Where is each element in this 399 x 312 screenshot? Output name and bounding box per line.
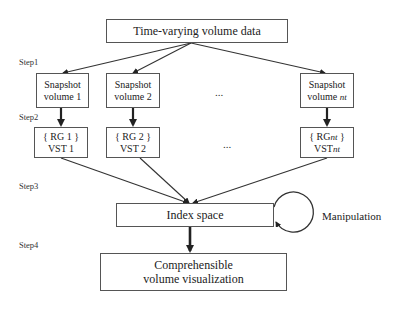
output-line1: Comprehensible xyxy=(154,258,233,272)
snapshot-nt-line2: volume nt xyxy=(307,91,347,103)
step2-label: Step2 xyxy=(19,112,38,122)
step2-arrows xyxy=(61,108,327,125)
ellipsis-rg: ... xyxy=(223,138,231,150)
snapshot-volume-2-box: Snapshot volume 2 xyxy=(106,73,160,108)
rg2-vst2-box: { RG 2 } VST 2 xyxy=(106,127,160,158)
snapshot-volume-nt-box: Snapshot volume nt xyxy=(300,73,354,108)
rg1-vst1-box: { RG 1 } VST 1 xyxy=(34,127,88,158)
step3-label: Step3 xyxy=(19,181,38,191)
snapshot-1-line2: volume 1 xyxy=(44,91,82,103)
step1-arrows xyxy=(63,43,325,73)
nt-subscript: nt xyxy=(340,92,347,102)
rgnt-label: { RGnt } xyxy=(309,131,345,143)
rg2-label: { RG 2 } xyxy=(115,131,151,143)
index-space-label: Index space xyxy=(167,208,224,222)
manipulation-loop-arrow xyxy=(274,192,313,232)
vstnt-label: VSTnt xyxy=(314,143,340,155)
manipulation-label: Manipulation xyxy=(322,210,381,222)
rgnt-vstnt-box: { RGnt } VSTnt xyxy=(300,127,354,158)
snapshot-nt-line1: Snapshot xyxy=(309,79,346,91)
top-box-label: Time-varying volume data xyxy=(133,24,261,38)
vst2-label: VST 2 xyxy=(120,143,146,155)
comprehensible-visualization-box: Comprehensible volume visualization xyxy=(100,253,287,291)
snapshot-2-line1: Snapshot xyxy=(115,79,152,91)
rg1-label: { RG 1 } xyxy=(43,131,79,143)
index-space-box: Index space xyxy=(116,203,274,227)
ellipsis-snapshots: ... xyxy=(215,86,223,98)
step4-label: Step4 xyxy=(19,240,38,250)
vst1-label: VST 1 xyxy=(48,143,74,155)
output-line2: volume visualization xyxy=(143,272,243,286)
step1-label: Step1 xyxy=(19,57,38,67)
snapshot-2-line2: volume 2 xyxy=(114,91,152,103)
step3-arrows xyxy=(61,158,327,203)
time-varying-volume-data-box: Time-varying volume data xyxy=(106,19,288,43)
snapshot-volume-1-box: Snapshot volume 1 xyxy=(36,73,89,108)
snapshot-1-line1: Snapshot xyxy=(44,79,81,91)
